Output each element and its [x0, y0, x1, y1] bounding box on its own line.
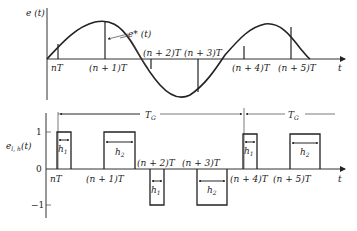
svg-text:h1: h1	[244, 146, 254, 157]
bottom-plot: t el, h(t) 1 0 −1 TG TG h1	[6, 108, 345, 218]
pulse-1: h1	[57, 132, 71, 169]
svg-text:h1: h1	[58, 144, 68, 155]
y-tick-1: 1	[36, 127, 42, 137]
period-label-1: TG	[145, 110, 156, 121]
pulse-width-modulation-diagram: e (t) t e* (t) nT (n + 1)T (n + 2)T (n +…	[0, 0, 357, 231]
bottom-tick-n1T: (n + 1)T	[86, 174, 125, 184]
period-label-2: TG	[288, 110, 299, 121]
top-x-label: t	[338, 63, 342, 73]
top-y-label: e (t)	[26, 8, 45, 18]
top-tick-n5T: (n + 5)T	[278, 63, 317, 73]
top-tick-n4T: (n + 4)T	[232, 63, 271, 73]
bottom-x-label: t	[338, 174, 342, 184]
svg-text:h2: h2	[300, 147, 310, 158]
pulse-2: h2	[104, 132, 135, 169]
pulse-5: h1	[243, 134, 257, 169]
y-tick-0: 0	[36, 164, 42, 174]
svg-text:h2: h2	[115, 147, 125, 158]
pulse-4: h2	[197, 169, 227, 205]
y-tick-neg1: −1	[31, 200, 44, 210]
top-plot: e (t) t e* (t) nT (n + 1)T (n + 2)T (n +…	[26, 8, 345, 100]
top-tick-n3T: (n + 3)T	[184, 48, 223, 58]
svg-text:h2: h2	[207, 185, 217, 196]
bottom-tick-n2T: (n + 2)T	[137, 158, 176, 168]
pulse-6: h2	[290, 134, 320, 169]
pulse-3: h1	[150, 169, 164, 205]
bottom-tick-nT: nT	[50, 174, 63, 184]
svg-text:h1: h1	[151, 185, 161, 196]
sampled-curve-label: e* (t)	[128, 29, 152, 39]
bottom-y-label: el, h(t)	[6, 141, 32, 152]
top-tick-n2T: (n + 2)T	[143, 48, 182, 58]
top-tick-nT: nT	[51, 63, 64, 73]
top-tick-n1T: (n + 1)T	[89, 63, 128, 73]
bottom-tick-n5T: (n + 5)T	[273, 174, 312, 184]
bottom-tick-n3T: (n + 3)T	[182, 158, 221, 168]
bottom-tick-n4T: (n + 4)T	[230, 174, 269, 184]
